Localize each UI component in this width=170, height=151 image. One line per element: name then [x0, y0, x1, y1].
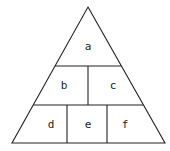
cell-label-a: a	[85, 40, 92, 53]
cell-label-c: c	[110, 79, 117, 92]
cell-label-f: f	[122, 118, 129, 131]
cell-label-d: d	[48, 118, 55, 131]
cell-label-e: e	[85, 118, 92, 131]
cell-label-b: b	[61, 79, 68, 92]
pyramid-diagram: a b c d e f	[0, 0, 170, 151]
